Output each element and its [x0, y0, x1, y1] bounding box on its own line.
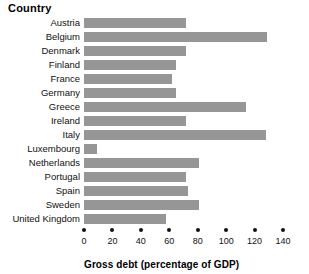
- bar-track: [84, 18, 305, 28]
- tick-dot-icon: [224, 228, 228, 232]
- bar-track: [84, 116, 305, 126]
- bar-row: Italy: [0, 129, 309, 143]
- bar: [84, 130, 266, 140]
- bar-track: [84, 214, 305, 224]
- x-axis-title: Gross debt (percentage of GDP): [84, 259, 239, 270]
- bar-row: Germany: [0, 87, 309, 101]
- bar-category-label: Luxembourg: [0, 143, 80, 155]
- tick-dot-icon: [110, 228, 114, 232]
- bar-row: Austria: [0, 17, 309, 31]
- bar-category-label: Germany: [0, 87, 80, 99]
- bar-category-label: France: [0, 73, 80, 85]
- bar-row: Denmark: [0, 45, 309, 59]
- bar-category-label: Italy: [0, 129, 80, 141]
- bar-track: [84, 200, 305, 210]
- bar-track: [84, 74, 305, 84]
- bar-row: Ireland: [0, 115, 309, 129]
- bar-row: United Kingdom: [0, 213, 309, 227]
- bar-category-label: Ireland: [0, 115, 80, 127]
- x-axis-tick-label: 140: [266, 236, 300, 246]
- bar-row: France: [0, 73, 309, 87]
- bar-row: Spain: [0, 185, 309, 199]
- bar-row: Greece: [0, 101, 309, 115]
- bar-category-label: Denmark: [0, 45, 80, 57]
- bar: [84, 18, 186, 28]
- bar-track: [84, 88, 305, 98]
- bar: [84, 88, 176, 98]
- plot-area: AustriaBelgiumDenmarkFinlandFranceGerman…: [0, 17, 309, 227]
- bar-track: [84, 186, 305, 196]
- bar-row: Sweden: [0, 199, 309, 213]
- bar: [84, 172, 186, 182]
- bar-row: Portugal: [0, 171, 309, 185]
- bar-track: [84, 172, 305, 182]
- bar-category-label: Austria: [0, 17, 80, 29]
- tick-dot-icon: [196, 228, 200, 232]
- x-axis: Gross debt (percentage of GDP) 020406080…: [0, 228, 309, 274]
- bar-category-label: Greece: [0, 101, 80, 113]
- bar-category-label: Netherlands: [0, 157, 80, 169]
- bar-track: [84, 102, 305, 112]
- bar: [84, 60, 176, 70]
- bar: [84, 116, 186, 126]
- bar-track: [84, 130, 305, 140]
- bar: [84, 186, 188, 196]
- bar: [84, 102, 246, 112]
- bar-category-label: Spain: [0, 185, 80, 197]
- bar-category-label: Sweden: [0, 199, 80, 211]
- bar-track: [84, 144, 305, 154]
- bar-row: Luxembourg: [0, 143, 309, 157]
- bar: [84, 158, 199, 168]
- tick-dot-icon: [281, 228, 285, 232]
- bar-track: [84, 158, 305, 168]
- bar-track: [84, 46, 305, 56]
- bar-category-label: Portugal: [0, 171, 80, 183]
- bar: [84, 46, 186, 56]
- tick-dot-icon: [253, 228, 257, 232]
- bar: [84, 144, 97, 154]
- bar-category-label: Belgium: [0, 31, 80, 43]
- bar-track: [84, 32, 305, 42]
- tick-dot-icon: [82, 228, 86, 232]
- bar-chart: Country AustriaBelgiumDenmarkFinlandFran…: [0, 0, 309, 274]
- bar-row: Finland: [0, 59, 309, 73]
- x-axis-tick: 140: [266, 228, 300, 246]
- bar: [84, 32, 267, 42]
- tick-dot-icon: [167, 228, 171, 232]
- bar-row: Belgium: [0, 31, 309, 45]
- country-axis-title: Country: [8, 2, 52, 14]
- tick-dot-icon: [139, 228, 143, 232]
- bar: [84, 74, 172, 84]
- bar-category-label: United Kingdom: [0, 213, 80, 225]
- bar-row: Netherlands: [0, 157, 309, 171]
- bar: [84, 200, 199, 210]
- bar: [84, 214, 166, 224]
- bar-track: [84, 60, 305, 70]
- bar-category-label: Finland: [0, 59, 80, 71]
